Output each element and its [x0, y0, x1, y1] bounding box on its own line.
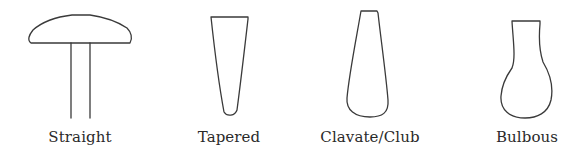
bulbous-icon [501, 21, 552, 118]
straight-icon [29, 15, 132, 118]
label-bulbous: Bulbous [496, 128, 558, 146]
tapered-icon [211, 17, 248, 115]
label-straight: Straight [48, 128, 111, 146]
clavate-club-icon [347, 11, 388, 117]
label-tapered: Tapered [198, 128, 261, 146]
label-clavate-club: Clavate/Club [320, 128, 419, 146]
